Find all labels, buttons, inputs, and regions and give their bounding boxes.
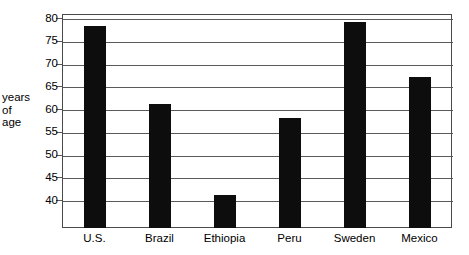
bar-sweden bbox=[344, 22, 366, 228]
x-label-us: U.S. bbox=[62, 231, 127, 245]
y-tick-label: 55 bbox=[34, 126, 58, 138]
y-tick-label: 50 bbox=[34, 149, 58, 161]
bars-group bbox=[62, 14, 452, 228]
y-tick-label: 45 bbox=[34, 172, 58, 184]
x-label-brazil: Brazil bbox=[127, 231, 192, 245]
x-label-peru: Peru bbox=[257, 231, 322, 245]
bar-peru bbox=[279, 118, 301, 228]
y-tick-label: 75 bbox=[34, 35, 58, 47]
y-tick-label: 60 bbox=[34, 104, 58, 116]
x-label-sweden: Sweden bbox=[322, 231, 387, 245]
y-tick-label: 80 bbox=[34, 13, 58, 25]
bar-brazil bbox=[149, 104, 171, 228]
x-axis-category-labels: U.S. Brazil Ethiopia Peru Sweden Mexico bbox=[62, 231, 452, 249]
y-tick-label: 65 bbox=[34, 81, 58, 93]
bar-chart: years of age 80 75 70 65 60 55 50 45 bbox=[0, 0, 469, 255]
bar-ethiopia bbox=[214, 195, 236, 228]
y-tick-label: 40 bbox=[34, 195, 58, 207]
bar-us bbox=[84, 26, 106, 228]
x-label-ethiopia: Ethiopia bbox=[192, 231, 257, 245]
y-axis-tick-labels: 80 75 70 65 60 55 50 45 40 bbox=[30, 14, 58, 228]
y-tick-label: 70 bbox=[34, 58, 58, 70]
bar-mexico bbox=[409, 77, 431, 228]
x-label-mexico: Mexico bbox=[387, 231, 452, 245]
